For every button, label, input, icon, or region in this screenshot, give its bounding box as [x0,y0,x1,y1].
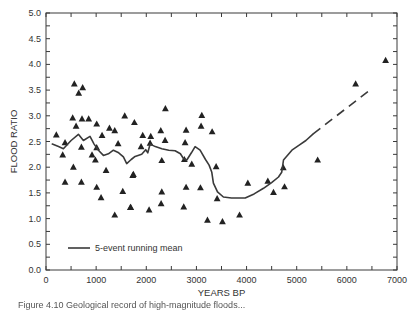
data-point [382,57,389,63]
data-point [69,114,76,120]
y-tick-label: 1.5 [28,188,41,198]
x-tick-label: 2000 [136,275,156,285]
data-point [79,84,86,90]
plot-border [46,13,397,270]
data-point [70,164,77,170]
y-tick-label: 1.0 [28,214,41,224]
data-point [236,211,243,217]
data-point [111,211,118,217]
y-tick-label: 0.0 [28,265,41,275]
data-point [183,184,190,190]
data-point [158,200,165,206]
data-point [89,151,96,157]
data-point [115,140,122,146]
x-tick-label: 3000 [186,275,206,285]
y-tick-label: 2.5 [28,137,41,147]
x-tick-label: 6000 [337,275,357,285]
data-point [209,128,216,134]
x-tick-label: 5000 [287,275,307,285]
data-point [157,127,164,133]
data-point [78,144,85,150]
data-point [73,122,80,128]
data-point [147,133,154,139]
legend-label: 5-event running mean [95,243,183,253]
data-point [93,120,100,126]
data-point [219,218,226,224]
running-mean-extrapolation-line [313,90,370,134]
data-point [180,203,187,209]
x-tick-label: 7000 [387,275,407,285]
data-point [182,139,189,145]
data-point [198,122,205,128]
x-axis-title: YEARS BP [198,287,246,298]
x-tick-label: 0 [43,275,48,285]
data-point [98,194,105,200]
data-point [146,206,153,212]
data-point [79,115,86,121]
y-tick-label: 5.0 [28,8,41,18]
data-point [204,217,211,223]
plot-marks [52,57,389,225]
data-point [71,80,78,86]
y-tick-label: 3.0 [28,111,41,121]
data-point [244,180,251,186]
data-point [138,143,145,149]
y-tick-label: 0.5 [28,239,41,249]
data-point [59,151,66,157]
data-point [158,157,165,163]
data-point [197,184,204,190]
y-axis-title: FLOOD RATIO [8,110,19,174]
figure-caption: Figure 4.10 Geological record of high-ma… [18,300,245,310]
data-point [85,115,92,121]
y-axis: 0.00.51.01.52.02.53.03.54.04.55.0 [28,8,397,275]
data-point [214,195,221,201]
data-point [119,188,126,194]
data-point [127,204,134,210]
x-tick-label: 4000 [237,275,257,285]
data-point [62,179,69,185]
data-point [75,90,82,96]
y-tick-label: 4.5 [28,34,41,44]
y-tick-label: 2.0 [28,162,41,172]
plot-frame [46,13,397,270]
chart: 01000200030004000500060007000 0.00.51.01… [0,0,418,310]
data-point [103,167,110,173]
data-point [99,132,106,138]
data-point [78,179,85,185]
data-point [188,161,195,167]
data-point [158,188,165,194]
data-point [213,163,220,169]
data-point [352,80,359,86]
x-tick-label: 1000 [86,275,106,285]
data-point [106,125,113,131]
data-point [281,183,288,189]
y-tick-label: 4.0 [28,59,41,69]
data-point [270,189,277,195]
data-point [198,112,205,118]
data-point [162,105,169,111]
data-point [53,131,60,137]
legend: 5-event running mean [68,243,183,253]
data-point [121,112,128,118]
y-tick-label: 3.5 [28,85,41,95]
data-point [131,119,138,125]
data-point [139,132,146,138]
data-point [93,184,100,190]
data-point [183,127,190,133]
data-point [314,156,321,162]
data-point [162,137,169,143]
